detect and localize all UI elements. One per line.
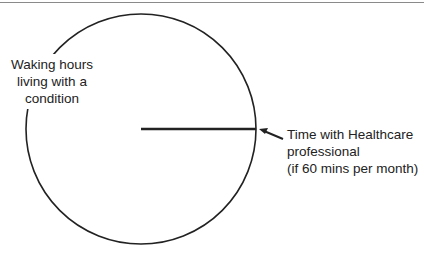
label-line: condition	[8, 90, 96, 107]
label-line: Waking hours	[8, 56, 96, 73]
label-line: professional	[287, 143, 418, 160]
arrow-icon	[259, 128, 283, 139]
label-line: (if 60 mins per month)	[287, 160, 418, 177]
label-line: living with a	[8, 73, 96, 90]
waking-hours-label: Waking hours living with a condition	[8, 54, 96, 109]
label-line: Time with Healthcare	[287, 126, 418, 143]
healthcare-time-label: Time with Healthcare professional (if 60…	[287, 126, 418, 177]
